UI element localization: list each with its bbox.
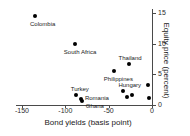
data-point-label: Turkey — [71, 86, 89, 93]
data-point — [74, 93, 78, 97]
data-point-label: Hungary — [118, 82, 141, 89]
data-point-label: Romania — [85, 95, 109, 102]
x-tick-label: -100 — [50, 107, 80, 115]
y-axis-line — [152, 9, 153, 106]
x-tick-label: -150 — [7, 107, 37, 115]
x-axis-title: Bond yields (basis point) — [0, 118, 176, 127]
y-tick-mark — [153, 13, 156, 14]
x-axis-line — [16, 105, 153, 106]
scatter-chart-figure: -150-100-500 051015 ColombiaSouth Africa… — [0, 0, 190, 136]
data-point — [127, 62, 131, 66]
y-tick-mark — [153, 105, 156, 106]
data-point — [125, 95, 129, 99]
y-tick-mark — [153, 44, 156, 45]
data-point — [80, 99, 84, 103]
data-point-label: South Africa — [64, 49, 96, 56]
y-tick-mark — [153, 74, 156, 75]
data-point-label: Ghana — [86, 103, 104, 110]
y-axis-title: Equity price (percent) — [162, 13, 171, 109]
data-point-label: Colombia — [30, 21, 55, 28]
data-point-label: Thailand — [119, 55, 142, 62]
data-point — [147, 96, 151, 100]
